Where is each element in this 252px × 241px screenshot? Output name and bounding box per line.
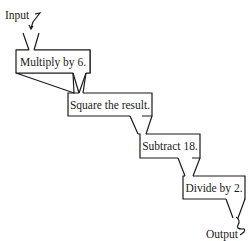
- input-funnel: [23, 33, 39, 50]
- step-label-4: Divide by 2.: [185, 182, 242, 195]
- flowchart-diagram: Input Multiply by 6. Square the result. …: [0, 0, 252, 241]
- step-label-3: Subtract 18.: [142, 140, 198, 152]
- output-funnel: [226, 199, 245, 218]
- funnel-3-4: [178, 158, 200, 176]
- funnel-2-3: [130, 116, 152, 134]
- step-label-1: Multiply by 6.: [20, 56, 86, 69]
- input-arrow-icon: [29, 13, 40, 29]
- input-label: Input: [5, 9, 30, 22]
- output-label: Output: [206, 228, 239, 241]
- step-label-2: Square the result.: [70, 99, 150, 112]
